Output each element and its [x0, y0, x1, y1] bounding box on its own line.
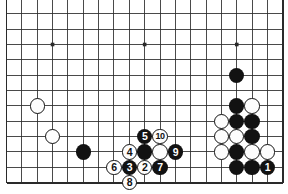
move-number-label: 6 — [111, 162, 116, 173]
black-stone — [244, 160, 259, 175]
black-stone — [244, 114, 259, 129]
black-stone — [229, 144, 244, 159]
white-stone — [244, 98, 259, 113]
move-number-label: 5 — [142, 131, 147, 142]
star-point — [143, 43, 147, 47]
move-number-label: 9 — [173, 147, 178, 158]
move-stone-6: 6 — [106, 160, 121, 175]
move-number-label: 1 — [265, 162, 270, 173]
move-number-label: 3 — [127, 162, 132, 173]
black-stone — [229, 98, 244, 113]
white-stone — [214, 144, 229, 159]
move-stone-7: 7 — [152, 160, 167, 175]
move-number-label: 4 — [127, 147, 132, 158]
white-stone — [30, 98, 45, 113]
move-number-label: 7 — [157, 162, 162, 173]
black-stone — [76, 144, 91, 159]
go-board-diagram: 12345678910 — [0, 0, 288, 194]
move-stone-9: 9 — [168, 144, 183, 159]
move-stone-3: 3 — [122, 160, 137, 175]
white-stone — [152, 144, 167, 159]
star-point — [51, 43, 55, 47]
move-stone-10: 10 — [152, 129, 167, 144]
star-point — [235, 43, 239, 47]
white-stone — [214, 114, 229, 129]
move-number-label: 2 — [142, 162, 147, 173]
move-stone-4: 4 — [122, 144, 137, 159]
black-stone — [137, 144, 152, 159]
white-stone — [260, 144, 275, 159]
black-stone — [244, 129, 259, 144]
white-stone — [244, 144, 259, 159]
move-number-label: 10 — [155, 132, 164, 141]
move-stone-1: 1 — [260, 160, 275, 175]
move-number-label: 8 — [127, 177, 132, 188]
